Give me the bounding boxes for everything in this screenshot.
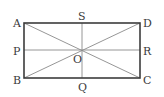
label-B: B: [13, 74, 21, 87]
label-R: R: [143, 45, 152, 58]
label-A: A: [12, 17, 22, 30]
label-S: S: [78, 10, 86, 23]
label-Q: Q: [78, 81, 87, 94]
label-O: O: [73, 53, 82, 66]
label-P: P: [13, 45, 21, 58]
geometry-diagram: A D B C S Q P R O: [0, 0, 164, 97]
label-D: D: [143, 17, 152, 30]
label-C: C: [143, 74, 151, 87]
